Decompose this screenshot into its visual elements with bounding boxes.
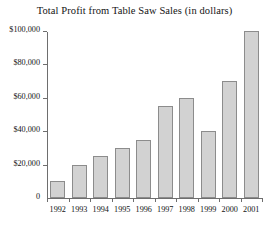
bar <box>72 165 87 198</box>
bar <box>222 81 237 198</box>
bar <box>50 181 65 198</box>
x-axis-tick-label: 2000 <box>219 205 241 214</box>
bar <box>244 31 259 198</box>
y-axis-tick-label: $100,000 <box>9 25 40 34</box>
x-axis-tick-label: 1996 <box>133 205 155 214</box>
x-axis-tick-mark <box>90 198 91 202</box>
x-axis-tick-mark <box>69 198 70 202</box>
bar <box>115 148 130 198</box>
x-axis-tick-mark <box>198 198 199 202</box>
y-axis-tick-label: $80,000 <box>13 58 40 67</box>
bar <box>158 106 173 198</box>
x-axis-tick-mark <box>47 198 48 202</box>
x-axis-tick-mark <box>133 198 134 202</box>
y-axis-zero-label: 0 <box>36 192 40 201</box>
x-axis-tick-label: 1992 <box>47 205 69 214</box>
bar-chart: Total Profit from Table Saw Sales (in do… <box>0 0 269 227</box>
y-axis-tick-label: $20,000 <box>13 159 40 168</box>
bar <box>201 131 216 198</box>
x-axis-tick-mark <box>112 198 113 202</box>
y-axis-tick-label: $40,000 <box>13 125 40 134</box>
x-axis-tick-label: 1998 <box>176 205 198 214</box>
x-axis-tick-mark <box>241 198 242 202</box>
x-axis-tick-mark <box>176 198 177 202</box>
x-axis-tick-label: 1993 <box>69 205 91 214</box>
bar <box>136 140 151 198</box>
bar <box>179 98 194 198</box>
x-axis-tick-label: 1995 <box>112 205 134 214</box>
plot-area <box>47 30 262 198</box>
x-axis-tick-mark <box>262 198 263 202</box>
x-axis-tick-mark <box>155 198 156 202</box>
x-axis-tick-label: 1999 <box>198 205 220 214</box>
y-axis-tick-label: $60,000 <box>13 92 40 101</box>
x-axis-tick-mark <box>219 198 220 202</box>
x-axis-tick-label: 2001 <box>241 205 263 214</box>
bar <box>93 156 108 198</box>
x-axis-tick-label: 1994 <box>90 205 112 214</box>
chart-title: Total Profit from Table Saw Sales (in do… <box>0 5 269 17</box>
x-axis-tick-label: 1997 <box>155 205 177 214</box>
